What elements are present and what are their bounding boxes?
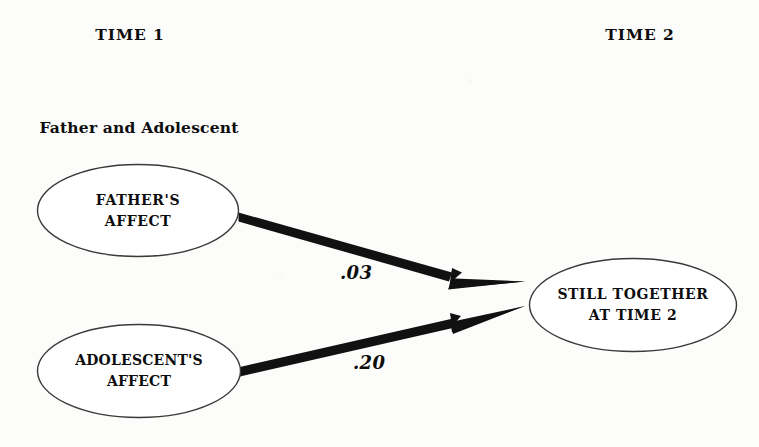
arrow-fathers-affect-to-still-together [239, 213, 526, 290]
path-coefficient-adolescents-affect: .20 [353, 352, 385, 373]
time1-header: TIME 1 [60, 26, 200, 44]
node-fathers-affect-line1: FATHER'S [96, 190, 180, 211]
time1-subtitle-line1: Father and Adolescent [8, 117, 270, 139]
node-still-together-line1: STILL TOGETHER [557, 284, 708, 305]
node-still-together-label: STILL TOGETHER AT TIME 2 [528, 257, 738, 353]
node-fathers-affect: FATHER'S AFFECT [36, 163, 240, 258]
node-adolescents-affect-line2: AFFECT [107, 371, 171, 392]
node-fathers-affect-line2: AFFECT [105, 211, 172, 232]
node-adolescents-affect-line1: ADOLESCENT'S [75, 350, 203, 371]
diagram-canvas: TIME 1 TIME 2 Father and Adolescent Are … [0, 0, 759, 447]
node-still-together-line2: AT TIME 2 [589, 305, 678, 326]
node-fathers-affect-label: FATHER'S AFFECT [36, 163, 240, 258]
path-coefficient-fathers-affect: .03 [340, 262, 372, 283]
time2-header: TIME 2 [570, 26, 710, 44]
node-still-together: STILL TOGETHER AT TIME 2 [528, 257, 738, 353]
node-adolescents-affect-label: ADOLESCENT'S AFFECT [36, 323, 242, 419]
node-adolescents-affect: ADOLESCENT'S AFFECT [36, 323, 242, 419]
